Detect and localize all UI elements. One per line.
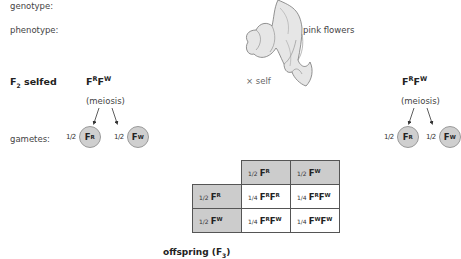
left-parent-genotype: FRFW xyxy=(86,75,111,87)
genotype-label: genotype: xyxy=(10,1,53,11)
punnett-row: 1/2FR 1/4FRFR 1/4FRFW xyxy=(193,185,340,209)
arrow-icon xyxy=(409,108,414,123)
row-header: 1/2FW xyxy=(193,209,242,233)
left-meiosis-label: (meiosis) xyxy=(86,96,125,106)
gamete-circle: FR xyxy=(397,126,419,148)
gamete-circle: FR xyxy=(79,126,101,148)
row-header: 1/2FR xyxy=(193,185,242,209)
gametes-label: gametes: xyxy=(10,134,50,144)
phenotype-label: phenotype: xyxy=(10,25,58,35)
col-header: 1/2FW xyxy=(291,161,340,185)
right-gamete-w: 1/2 FW xyxy=(426,126,461,148)
right-meiosis-label: (meiosis) xyxy=(401,96,440,106)
left-arrows xyxy=(88,106,128,128)
right-gamete-r: 1/2 FR xyxy=(384,126,419,148)
cross-self-label: × self xyxy=(246,76,271,86)
punnett-header-row: 1/2FR 1/2FW xyxy=(193,161,340,185)
offspring-cell: 1/4FWFW xyxy=(291,209,340,233)
right-arrows xyxy=(403,106,443,128)
generation-label: F2 selfed xyxy=(10,76,57,89)
arrow-icon xyxy=(427,108,432,123)
right-parent-genotype: FRFW xyxy=(402,75,427,87)
phenotype-value: pink flowers xyxy=(303,25,354,35)
offspring-cell: 1/4FRFR xyxy=(242,185,291,209)
punnett-square: 1/2FR 1/2FW 1/2FR 1/4FRFR 1/4FRFW 1/2FW … xyxy=(192,160,340,233)
gamete-circle: FW xyxy=(439,126,461,148)
offspring-label: offspring (F3) xyxy=(163,247,230,259)
corner-cell xyxy=(193,161,242,185)
left-gamete-r: 1/2 FR xyxy=(66,126,101,148)
arrow-icon xyxy=(112,108,117,123)
offspring-cell: 1/4FRFW xyxy=(242,209,291,233)
punnett-row: 1/2FW 1/4FRFW 1/4FWFW xyxy=(193,209,340,233)
gamete-circle: FW xyxy=(127,126,149,148)
col-header: 1/2FR xyxy=(242,161,291,185)
left-gamete-w: 1/2 FW xyxy=(114,126,149,148)
offspring-cell: 1/4FRFW xyxy=(291,185,340,209)
arrow-icon xyxy=(94,108,99,123)
